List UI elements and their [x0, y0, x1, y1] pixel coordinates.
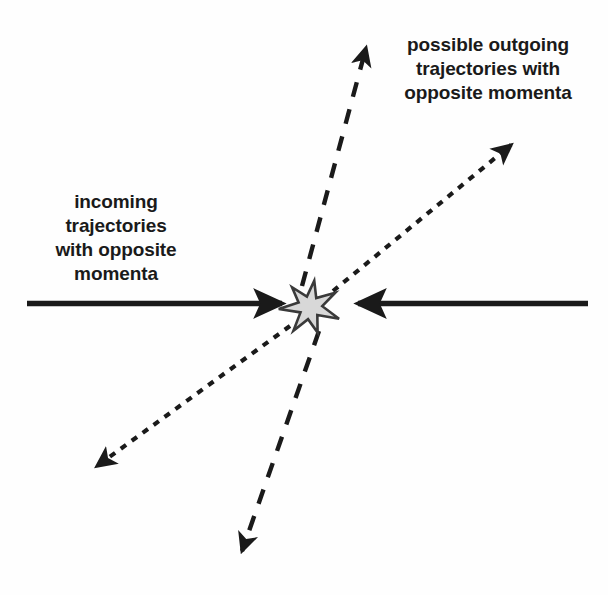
- label-incoming-line-1: incoming: [46, 190, 186, 214]
- label-incoming-line-2: trajectories: [46, 214, 186, 238]
- label-incoming-trajectories: incoming trajectories with opposite mome…: [46, 190, 186, 286]
- collision-starburst-icon: [279, 281, 339, 333]
- label-outgoing-line-1: possible outgoing: [386, 33, 590, 57]
- label-possible-outgoing-trajectories: possible outgoing trajectories with oppo…: [386, 33, 590, 105]
- label-outgoing-line-2: trajectories with: [386, 57, 590, 81]
- scattering-diagram: possible outgoing trajectories with oppo…: [0, 0, 608, 595]
- arrow-outgoing-lower-left: [97, 326, 290, 466]
- arrow-outgoing-down: [242, 331, 319, 551]
- label-outgoing-line-3: opposite momenta: [386, 81, 590, 105]
- label-incoming-line-3: with opposite: [46, 238, 186, 262]
- label-incoming-line-4: momenta: [46, 262, 186, 286]
- arrow-outgoing-upper-right: [333, 145, 511, 291]
- arrow-outgoing-up: [302, 48, 366, 286]
